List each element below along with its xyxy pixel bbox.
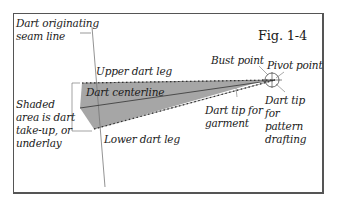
garment-tip-line2: garment xyxy=(205,117,263,130)
pattern-tip-line2: for xyxy=(265,107,306,120)
garment-tip-line1: Dart tip for xyxy=(205,104,263,117)
seam-line-label-line2: seam line xyxy=(16,30,99,43)
upper-dart-leg-label: Upper dart leg xyxy=(96,65,172,78)
shaded-area-label: Shaded area is dart take-up, or underlay xyxy=(16,98,75,150)
pattern-tip-line4: drafting xyxy=(265,133,306,146)
shaded-label-line4: underlay xyxy=(16,137,75,150)
lower-dart-leg-label: Lower dart leg xyxy=(104,133,180,146)
seam-line-label-line1: Dart originating xyxy=(16,17,99,30)
shaded-label-line3: take-up, or xyxy=(16,124,75,137)
pattern-tip-leader xyxy=(276,84,285,92)
garment-tip-leader xyxy=(236,88,237,97)
garment-tip-label: Dart tip for garment xyxy=(205,104,263,130)
pattern-tip-line3: pattern xyxy=(265,120,306,133)
pattern-tip-label: Dart tip for pattern drafting xyxy=(265,94,306,146)
pivot-point-label: Pivot point xyxy=(267,59,322,72)
figure-title: Fig. 1-4 xyxy=(258,29,307,42)
shaded-label-line1: Shaded xyxy=(16,98,75,111)
shaded-label-line2: area is dart xyxy=(16,111,75,124)
dart-centerline-label: Dart centerline xyxy=(86,86,164,99)
bust-point-label: Bust point xyxy=(211,54,264,67)
pattern-tip-line1: Dart tip xyxy=(265,94,306,107)
seam-line-label: Dart originating seam line xyxy=(16,17,99,43)
